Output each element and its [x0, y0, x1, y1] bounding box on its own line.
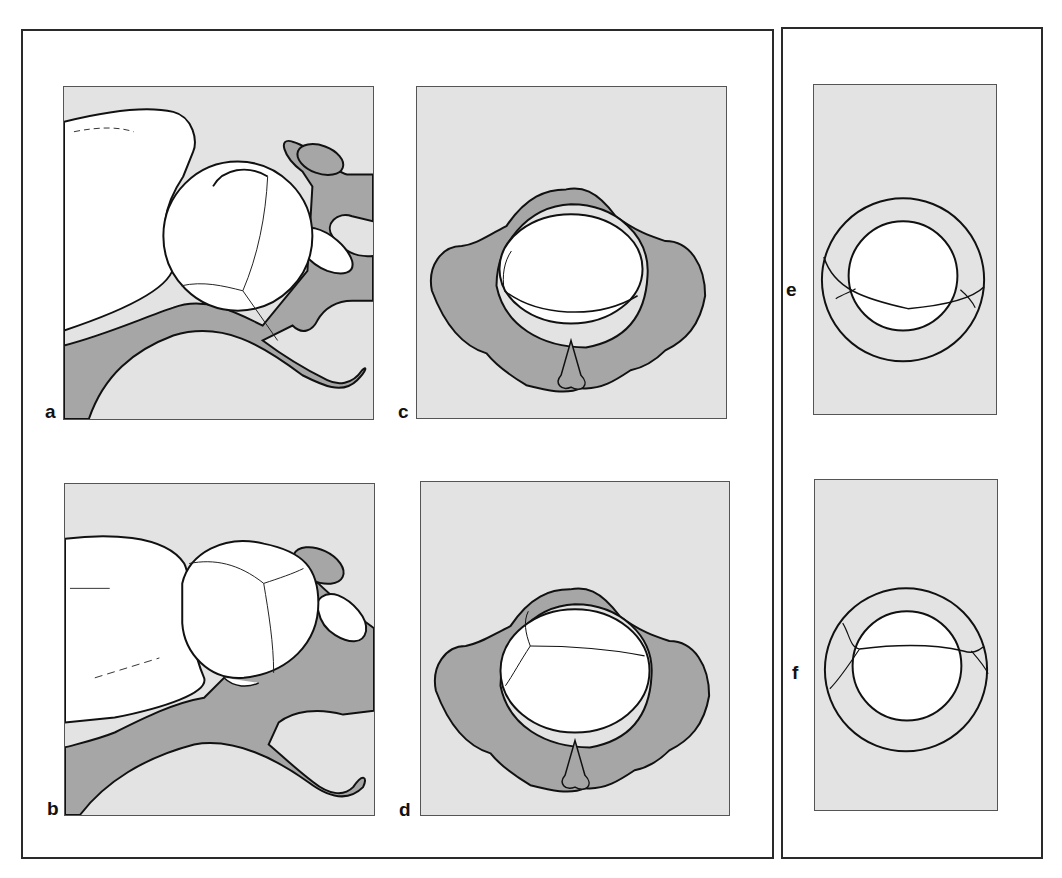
fetal-head — [163, 162, 312, 311]
inner-circle — [849, 221, 958, 330]
panel-b-lateral-view — [64, 483, 375, 816]
panel-label-b: b — [47, 799, 59, 818]
panel-label-c: c — [398, 402, 409, 421]
fetal-head — [499, 214, 642, 323]
fetal-head — [500, 609, 649, 732]
panel-d-inlet-view — [420, 481, 730, 816]
inner-circle — [853, 611, 962, 720]
panel-a-lateral-view — [63, 86, 374, 420]
ring-schematic-f — [815, 480, 997, 810]
panel-label-e: e — [786, 280, 797, 299]
panel-c-inlet-view — [416, 86, 727, 419]
panel-f-schematic — [814, 479, 998, 811]
panel-e-schematic — [813, 84, 997, 415]
panel-label-f: f — [792, 663, 798, 682]
panel-label-d: d — [399, 800, 411, 819]
pelvic-inlet-illustration-d — [421, 482, 729, 815]
lateral-pelvis-illustration-a — [64, 87, 373, 419]
panel-label-a: a — [45, 402, 56, 421]
ring-schematic-e — [814, 85, 996, 414]
pelvic-inlet-illustration-c — [417, 87, 726, 418]
lateral-pelvis-illustration-b — [65, 484, 374, 815]
